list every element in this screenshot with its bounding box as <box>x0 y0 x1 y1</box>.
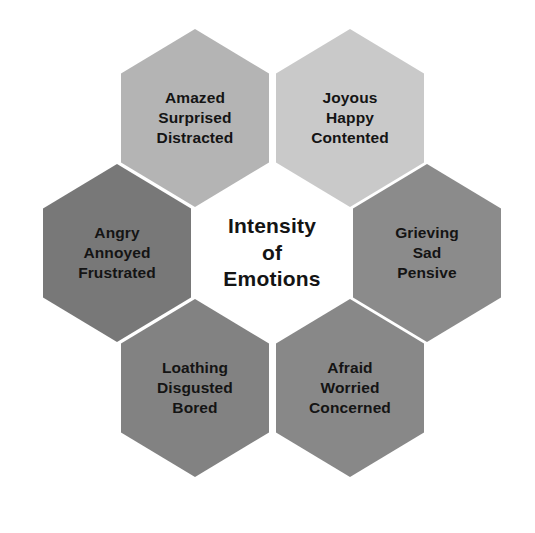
diagram-title: Intensity of Emotions <box>223 213 320 294</box>
hex-label-line: Angry <box>94 223 139 243</box>
diagram-title-line: of <box>262 240 282 267</box>
hex-label-line: Sad <box>413 243 442 263</box>
hex-label-line: Worried <box>321 378 380 398</box>
hex-label-line: Afraid <box>327 358 372 378</box>
hex-label-line: Pensive <box>397 263 456 283</box>
hex-label-line: Annoyed <box>83 243 150 263</box>
hex-label-line: Bored <box>172 398 217 418</box>
hex-label-group: Amazed Surprised Distracted <box>157 88 234 148</box>
hex-label-line: Distracted <box>157 128 234 148</box>
hex-label-line: Loathing <box>162 358 228 378</box>
hex-label-line: Joyous <box>323 88 378 108</box>
hex-label-line: Concerned <box>309 398 391 418</box>
diagram-title-line: Intensity <box>228 213 316 240</box>
hex-label-group: Loathing Disgusted Bored <box>157 358 233 418</box>
hex-label-line: Contented <box>311 128 389 148</box>
diagram-title-line: Emotions <box>223 266 320 293</box>
hex-label-group: Afraid Worried Concerned <box>309 358 391 418</box>
hex-label-group: Grieving Sad Pensive <box>395 223 459 283</box>
hex-label-line: Frustrated <box>78 263 156 283</box>
hex-label-line: Surprised <box>158 108 231 128</box>
hex-label-line: Amazed <box>165 88 225 108</box>
hex-label-line: Disgusted <box>157 378 233 398</box>
emotions-hexagon-diagram: Amazed Surprised Distracted Joyous Happy… <box>0 0 535 533</box>
hex-label-line: Happy <box>326 108 374 128</box>
hex-label-line: Grieving <box>395 223 459 243</box>
hex-label-group: Angry Annoyed Frustrated <box>78 223 156 283</box>
hex-label-group: Joyous Happy Contented <box>311 88 389 148</box>
